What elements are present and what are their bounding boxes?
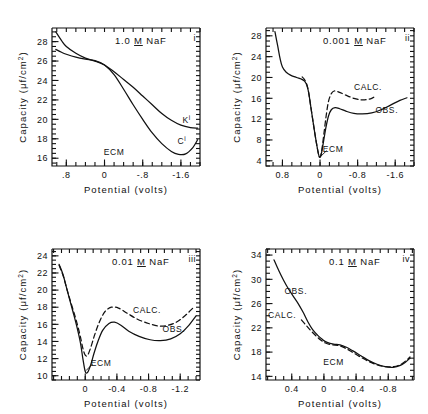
y-tick-label: 34 xyxy=(251,250,262,260)
x-tick-label: 0 xyxy=(321,384,327,394)
x-tick-label: 0.8 xyxy=(275,170,289,180)
x-axis-title: Potential (volts) xyxy=(84,398,168,409)
y-tick-label: 12 xyxy=(37,354,48,364)
y-tick-label: 16 xyxy=(251,94,262,104)
y-tick-label: 10 xyxy=(37,371,48,381)
y-tick-label: 26 xyxy=(251,299,262,309)
annotation-ecm: ECM xyxy=(91,358,112,368)
y-axis-title: Capacity (μf/cm2) xyxy=(231,269,243,361)
x-tick-label: -1.2 xyxy=(171,384,189,394)
y-axis-title: Capacity (μf/cm2) xyxy=(231,51,243,143)
x-axis-ticks-iii: 0-0.4-0.8-1.2 xyxy=(82,374,188,395)
y-tick-label: 24 xyxy=(37,76,48,86)
y-tick-label: 22 xyxy=(37,95,48,105)
x-tick-label: 0 xyxy=(317,170,323,180)
chart-panel-ii: 0.80-0.8-1.6282420161284Potential (volts… xyxy=(214,0,428,207)
x-tick-label: -0.4 xyxy=(108,384,126,394)
x-tick-label: -0.8 xyxy=(140,384,158,394)
svg-text:Capacity (μf/cm2): Capacity (μf/cm2) xyxy=(17,269,29,361)
annotation-obs: OBS. xyxy=(284,286,307,296)
annotation-k: Ki xyxy=(182,114,190,126)
x-tick-label: -0.8 xyxy=(349,170,367,180)
x-axis-title: Potential (volts) xyxy=(298,184,382,195)
figure-capacity-vs-potential: .80-.8-1.628262422201816Potential (volts… xyxy=(0,0,428,414)
x-axis-title: Potential (volts) xyxy=(84,184,168,195)
panel-roman-numeral: i xyxy=(194,33,197,43)
annotation-obs: OBS. xyxy=(163,324,186,334)
curve-obs xyxy=(275,32,407,158)
y-tick-label: 14 xyxy=(37,337,48,347)
y-tick-label: 28 xyxy=(37,37,48,47)
chart-svg-iii: 0-0.4-0.8-1.22422201816141210Potential (… xyxy=(0,207,214,414)
y-tick-label: 8 xyxy=(256,135,262,145)
svg-text:0.01 M NaF: 0.01 M NaF xyxy=(112,256,170,267)
x-tick-label: 0 xyxy=(102,170,108,180)
svg-text:Capacity (μf/cm2): Capacity (μf/cm2) xyxy=(231,51,243,143)
panel-roman-numeral: iv xyxy=(403,254,411,264)
y-tick-label: 22 xyxy=(251,323,262,333)
y-axis-title: Capacity (μf/cm2) xyxy=(17,51,29,143)
x-axis-title: Potential (volts) xyxy=(298,398,382,409)
annotation-ecm: ECM xyxy=(323,144,344,154)
y-tick-label: 24 xyxy=(37,251,48,261)
y-tick-label: 20 xyxy=(251,73,262,83)
x-tick-label: -1.6 xyxy=(386,170,404,180)
y-tick-label: 20 xyxy=(37,115,48,125)
annotation-obs: OBS. xyxy=(375,105,398,115)
chart-svg-i: .80-.8-1.628262422201816Potential (volts… xyxy=(0,0,214,207)
concentration-label-iv: 0.1 M NaF xyxy=(329,256,381,267)
x-tick-label: -0.4 xyxy=(347,384,365,394)
svg-text:0.1 M NaF: 0.1 M NaF xyxy=(329,256,381,267)
chart-panel-i: .80-.8-1.628262422201816Potential (volts… xyxy=(0,0,214,207)
panel-roman-numeral: iii xyxy=(189,254,197,264)
svg-text:Capacity (μf/cm2): Capacity (μf/cm2) xyxy=(17,51,29,143)
chart-svg-iv: 0.40-0.4-0.8343026221814Potential (volts… xyxy=(214,207,428,414)
chart-panel-iii: 0-0.4-0.8-1.22422201816141210Potential (… xyxy=(0,207,214,414)
x-tick-label: -1.6 xyxy=(172,170,190,180)
y-tick-label: 22 xyxy=(37,268,48,278)
y-tick-label: 12 xyxy=(251,114,262,124)
annotation-calc: CALC. xyxy=(354,82,382,92)
curve-calc xyxy=(301,320,410,367)
y-tick-label: 4 xyxy=(256,156,262,166)
svg-text:1.0 M NaF: 1.0 M NaF xyxy=(115,35,167,46)
y-axis-title: Capacity (μf/cm2) xyxy=(17,269,29,361)
x-tick-label: 0.4 xyxy=(285,384,299,394)
x-tick-label: -.8 xyxy=(137,170,149,180)
chart-panel-iv: 0.40-0.4-0.8343026221814Potential (volts… xyxy=(214,207,428,414)
y-tick-label: 18 xyxy=(37,302,48,312)
concentration-label-i: 1.0 M NaF xyxy=(115,35,167,46)
y-tick-label: 30 xyxy=(251,275,262,285)
annotation-ecm: ECM xyxy=(104,147,125,157)
y-tick-label: 26 xyxy=(37,56,48,66)
panel-roman-numeral: ii xyxy=(405,33,410,43)
concentration-label-ii: 0.001 M NaF xyxy=(323,35,387,46)
x-tick-label: 0 xyxy=(82,384,88,394)
y-tick-label: 18 xyxy=(251,347,262,357)
svg-text:Capacity (μf/cm2): Capacity (μf/cm2) xyxy=(231,269,243,361)
curve-obs xyxy=(59,264,196,373)
y-tick-label: 18 xyxy=(37,134,48,144)
curve-calc xyxy=(59,265,193,356)
annotation-calc: CALC. xyxy=(268,310,296,320)
annotation-ecm: ECM xyxy=(323,357,344,367)
annotation-c: Ci xyxy=(177,134,186,146)
y-tick-label: 16 xyxy=(37,153,48,163)
curve-k-curve xyxy=(56,32,198,128)
y-tick-label: 16 xyxy=(37,320,48,330)
x-axis-ticks-i: .80-.8-1.6 xyxy=(62,160,190,181)
concentration-label-iii: 0.01 M NaF xyxy=(112,256,170,267)
curve-c-curve xyxy=(56,49,198,154)
y-tick-label: 20 xyxy=(37,285,48,295)
y-tick-label: 28 xyxy=(251,31,262,41)
y-tick-label: 24 xyxy=(251,52,262,62)
y-tick-label: 14 xyxy=(251,372,262,382)
svg-text:0.001 M NaF: 0.001 M NaF xyxy=(323,35,387,46)
x-tick-label: -0.8 xyxy=(380,384,398,394)
x-tick-label: .8 xyxy=(62,170,71,180)
x-axis-ticks-ii: 0.80-0.8-1.6 xyxy=(275,160,404,181)
chart-svg-ii: 0.80-0.8-1.6282420161284Potential (volts… xyxy=(214,0,428,207)
annotation-calc: CALC. xyxy=(133,305,161,315)
